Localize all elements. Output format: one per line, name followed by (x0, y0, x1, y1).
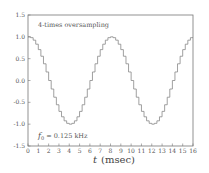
x-axis-label-var: t (93, 154, 98, 165)
x-tick-label: 9 (119, 147, 123, 154)
x-tick-label: 8 (109, 147, 113, 154)
y-tick-label: -0.5 (13, 98, 25, 105)
chart: 012345678910111213141516 1.51.00.50.0-0.… (0, 0, 209, 173)
y-tick-label: 1.0 (15, 33, 25, 40)
y-tick-label: -1.5 (13, 142, 25, 149)
y-tick-label: 1.5 (15, 11, 25, 18)
x-axis-label: t(msec) (93, 154, 135, 165)
x-axis-label-unit: (msec) (101, 154, 135, 165)
x-tick-label: 15 (179, 147, 187, 154)
y-tick-label: -1.0 (13, 120, 25, 127)
frequency-label: f0 = 0.125 kHz (37, 131, 88, 141)
oversampling-label: 4-times oversampling (38, 21, 109, 29)
x-axis-ticks: 012345678910111213141516 (26, 144, 197, 155)
axes-frame (28, 15, 193, 146)
x-tick-label: 7 (98, 147, 102, 154)
x-tick-label: 14 (169, 147, 177, 154)
y-tick-label: 0.5 (15, 55, 25, 62)
x-tick-label: 3 (57, 147, 61, 154)
x-tick-label: 0 (26, 147, 30, 154)
x-tick-label: 10 (127, 147, 135, 154)
x-tick-label: 4 (67, 147, 71, 154)
x-tick-label: 2 (47, 147, 51, 154)
x-tick-label: 13 (158, 147, 166, 154)
x-tick-label: 5 (78, 147, 82, 154)
x-tick-label: 16 (189, 147, 197, 154)
x-tick-label: 1 (36, 147, 40, 154)
x-tick-label: 11 (138, 147, 146, 154)
frequency-value: = 0.125 kHz (44, 132, 88, 140)
x-tick-label: 6 (88, 147, 92, 154)
staircase-curve (28, 37, 193, 124)
y-tick-label: 0.0 (15, 77, 25, 84)
x-tick-label: 12 (148, 147, 156, 154)
plot-area (28, 37, 193, 124)
